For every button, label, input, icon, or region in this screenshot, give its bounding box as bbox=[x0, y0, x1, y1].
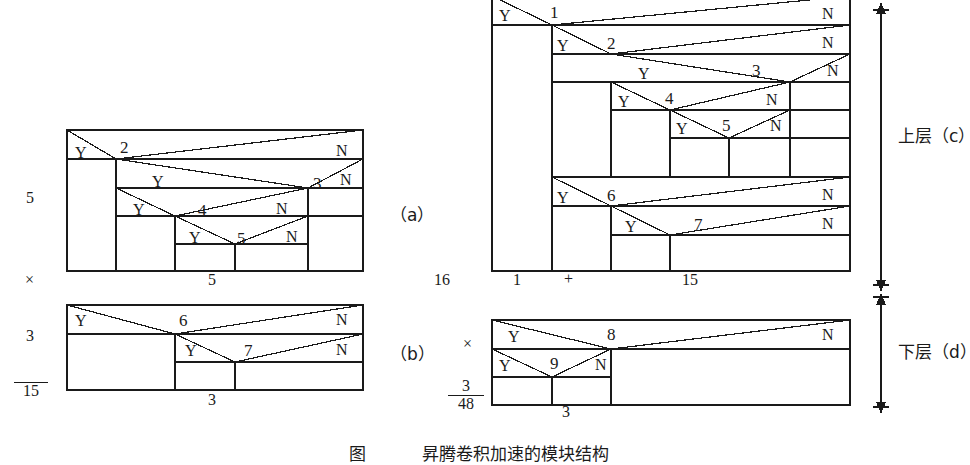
branch-yes-c-1: Y bbox=[499, 8, 511, 24]
left-dim-3: 3 bbox=[26, 328, 34, 344]
node-label-a-3: 3 bbox=[313, 175, 322, 192]
panel-c-grid bbox=[492, 0, 850, 271]
panel-label-lower-layer: 下层（d） bbox=[898, 344, 970, 361]
node-label-b-6: 6 bbox=[179, 312, 188, 329]
node-label-c-5: 5 bbox=[722, 117, 731, 134]
left-multiply-sign: × bbox=[25, 272, 34, 288]
branch-yes-c-2: Y bbox=[557, 38, 569, 54]
left-dim-5: 5 bbox=[26, 190, 34, 206]
panel-label-upper-layer: 上层（c） bbox=[898, 128, 970, 145]
branch-no-a-2: N bbox=[340, 172, 352, 188]
right-dim-den-48: 48 bbox=[448, 395, 484, 413]
branch-no-d-2: N bbox=[595, 357, 607, 373]
panel-b-grid bbox=[67, 305, 363, 390]
node-label-a-2: 2 bbox=[120, 139, 129, 156]
dim-c-part2: 15 bbox=[682, 272, 698, 288]
branch-yes-b-1: Y bbox=[75, 313, 87, 329]
node-label-a-4: 4 bbox=[198, 202, 207, 219]
dim-c-part1: 1 bbox=[513, 272, 521, 288]
node-label-d-9: 9 bbox=[550, 355, 559, 372]
node-label-c-3: 3 bbox=[752, 62, 761, 79]
right-dim-num-3: 3 bbox=[448, 378, 484, 395]
branch-yes-d-2: Y bbox=[499, 358, 511, 374]
branch-no-d-1: N bbox=[822, 327, 834, 343]
branch-yes-c-5: Y bbox=[676, 121, 688, 137]
branch-no-c-7: N bbox=[822, 216, 834, 232]
dim-bottom-d: 3 bbox=[562, 404, 570, 420]
branch-no-b-2: N bbox=[336, 342, 348, 358]
dim-bottom-a: 5 bbox=[208, 272, 216, 288]
branch-yes-a-4: Y bbox=[189, 230, 201, 246]
node-label-c-4: 4 bbox=[665, 90, 674, 107]
branch-yes-c-4: Y bbox=[618, 94, 630, 110]
node-label-a-5: 5 bbox=[237, 230, 246, 247]
branch-yes-a-1: Y bbox=[75, 145, 87, 161]
node-label-b-7: 7 bbox=[244, 342, 253, 359]
branch-no-a-1: N bbox=[336, 143, 348, 159]
branch-no-c-2: N bbox=[822, 35, 834, 51]
branch-yes-c-6: Y bbox=[557, 190, 569, 206]
branch-yes-c-7: Y bbox=[625, 219, 637, 235]
node-label-c-6: 6 bbox=[607, 187, 616, 204]
branch-yes-a-2: Y bbox=[152, 174, 164, 190]
branch-no-b-1: N bbox=[336, 312, 348, 328]
branch-no-c-1: N bbox=[822, 6, 834, 22]
layer-brackets bbox=[873, 6, 889, 410]
figure-caption: 图 昇腾卷积加速的模块结构 bbox=[0, 440, 958, 465]
panel-label-b: （b） bbox=[390, 346, 435, 363]
branch-no-c-3: N bbox=[827, 63, 839, 79]
branch-no-c-4: N bbox=[766, 92, 778, 108]
node-label-c-1: 1 bbox=[550, 4, 559, 21]
branch-yes-a-3: Y bbox=[133, 202, 145, 218]
panel-c-branches bbox=[492, 0, 850, 235]
right-dim-16: 16 bbox=[434, 272, 450, 288]
dim-bottom-b: 3 bbox=[208, 392, 216, 408]
branch-no-c-5: N bbox=[770, 118, 782, 134]
branch-no-a-3: N bbox=[276, 201, 288, 217]
branch-yes-c-3: Y bbox=[638, 66, 650, 82]
node-label-c-7: 7 bbox=[694, 216, 703, 233]
branch-no-a-4: N bbox=[286, 229, 298, 245]
panel-label-a: （a） bbox=[390, 207, 434, 224]
right-multiply-sign: × bbox=[463, 336, 472, 352]
left-dim-result-15: 15 bbox=[14, 382, 48, 400]
dim-c-plus: + bbox=[564, 271, 573, 287]
branch-yes-d-1: Y bbox=[508, 329, 520, 345]
node-label-c-2: 2 bbox=[607, 35, 616, 52]
panel-a-grid bbox=[67, 130, 363, 271]
branch-no-c-6: N bbox=[822, 187, 834, 203]
node-label-d-8: 8 bbox=[607, 326, 616, 343]
branch-yes-b-2: Y bbox=[185, 343, 197, 359]
